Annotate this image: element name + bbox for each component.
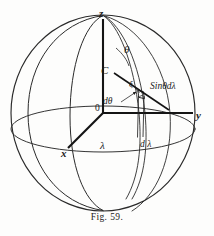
label-axis-x: x bbox=[61, 148, 67, 159]
label-axis-z: z bbox=[99, 8, 103, 19]
label-xi: ξ bbox=[129, 80, 133, 89]
label-axis-y: y bbox=[196, 110, 201, 121]
label-origin: 0 bbox=[95, 104, 100, 114]
meridian-back-left bbox=[28, 16, 103, 211]
sphere-diagram bbox=[0, 0, 214, 236]
label-point-c: C bbox=[101, 65, 108, 76]
label-d-lambda: d λ bbox=[140, 140, 151, 150]
figure-container: z y x 0 C θ dθ ξ λ d λ Sinθdλ Fig. 59. bbox=[0, 0, 214, 236]
label-lambda: λ bbox=[100, 140, 105, 151]
figure-caption-text: Fig. 59. bbox=[91, 212, 124, 222]
label-d-theta: dθ bbox=[103, 97, 112, 107]
figure-caption: Fig. 59. bbox=[0, 212, 214, 222]
axis-x-line bbox=[68, 113, 103, 148]
label-theta: θ bbox=[124, 44, 129, 55]
dropline-lambda-d bbox=[143, 96, 144, 137]
dtheta-leader bbox=[121, 92, 136, 102]
label-sin-theta-d-lambda: Sinθdλ bbox=[150, 82, 176, 92]
